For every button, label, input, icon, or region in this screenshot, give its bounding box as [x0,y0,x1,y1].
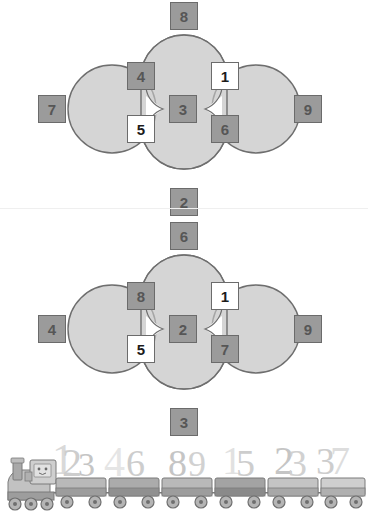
smokestack [13,462,22,480]
train-car [109,478,159,508]
train-car [215,478,265,508]
cell-inner-se[interactable]: 6 [211,115,239,143]
train-car [321,478,365,508]
puzzle-diagram-top: 8 7 9 2 4 1 3 5 6 [0,0,368,208]
number-train: 1 2 3 4 6 8 9 1 5 2 3 3 7 [0,430,368,516]
face-eye-left [38,468,41,471]
cell-inner-sw[interactable]: 5 [127,115,155,143]
train-car [162,478,212,508]
digit-group-3: 3 [78,446,95,483]
boiler-dome [25,472,32,481]
face-eye-right [45,468,48,471]
cell-west[interactable]: 7 [38,95,66,123]
cell-north[interactable]: 8 [170,2,198,30]
smokestack-cap [11,458,24,463]
cell-west[interactable]: 4 [38,315,66,343]
train-car [268,478,318,508]
cell-inner-nw[interactable]: 4 [127,62,155,90]
cell-inner-ne[interactable]: 1 [211,282,239,310]
puzzle-worksheet-page: 8 7 9 2 4 1 3 5 6 6 4 9 3 8 1 2 5 7 [0,0,368,516]
cell-north[interactable]: 6 [170,222,198,250]
locomotive-wheels [9,498,53,510]
cell-inner-sw[interactable]: 5 [127,335,155,363]
locomotive-window [34,464,51,477]
locomotive [8,458,56,510]
train-car [56,478,106,508]
cell-inner-nw[interactable]: 8 [127,282,155,310]
cell-east[interactable]: 9 [294,315,322,343]
puzzle-diagram-bottom: 6 4 9 3 8 1 2 5 7 [0,218,368,428]
cell-inner-ne[interactable]: 1 [211,62,239,90]
digit-group-7: 7 [330,438,350,483]
train-artwork: 1 2 3 4 6 8 9 1 5 2 3 3 7 [0,430,368,516]
cell-center[interactable]: 3 [169,95,197,123]
cell-east[interactable]: 9 [294,95,322,123]
cell-south[interactable]: 2 [170,188,198,216]
section-divider [0,208,368,209]
cell-inner-se[interactable]: 7 [211,335,239,363]
cell-center[interactable]: 2 [169,315,197,343]
